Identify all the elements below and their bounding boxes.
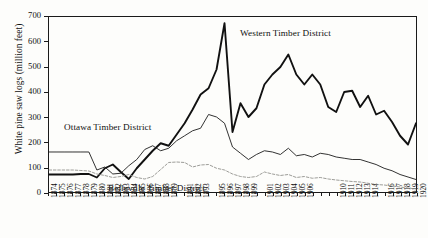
x-tick-mark bbox=[321, 193, 322, 196]
y-tick-label: 700 bbox=[17, 11, 41, 20]
x-tick-mark bbox=[329, 193, 330, 196]
y-tick-label: 500 bbox=[17, 62, 41, 71]
x-tick-mark bbox=[48, 193, 49, 196]
y-tick-label: 400 bbox=[17, 87, 41, 96]
x-tick-mark bbox=[377, 193, 378, 196]
series-label-ottawa: Ottawa Timber District bbox=[64, 122, 151, 132]
plot-area bbox=[48, 16, 417, 193]
y-tick-label: 600 bbox=[17, 37, 41, 46]
series-line-belleville bbox=[49, 162, 416, 189]
x-tick-mark bbox=[401, 193, 402, 196]
y-tick-label: 200 bbox=[17, 138, 41, 147]
x-tick-mark bbox=[72, 193, 73, 196]
x-tick-mark bbox=[337, 193, 338, 196]
x-tick-mark bbox=[417, 193, 418, 196]
y-tick-label: 100 bbox=[17, 163, 41, 172]
x-tick-mark bbox=[257, 193, 258, 196]
x-tick-mark bbox=[88, 193, 89, 196]
series-layer bbox=[49, 17, 416, 192]
series-label-belleville: Belleville Timber District bbox=[108, 183, 205, 193]
y-tick-label: 300 bbox=[17, 113, 41, 122]
x-tick-mark bbox=[369, 193, 370, 196]
series-label-western: Western Timber District bbox=[240, 28, 331, 38]
x-tick-mark bbox=[64, 193, 65, 196]
x-tick-mark bbox=[409, 193, 410, 196]
series-line-western bbox=[49, 23, 416, 179]
x-tick-mark bbox=[176, 193, 177, 196]
x-tick-mark bbox=[208, 193, 209, 196]
x-tick-mark bbox=[80, 193, 81, 196]
y-tick-label: 0 bbox=[17, 188, 41, 197]
x-tick-mark bbox=[56, 193, 57, 196]
x-tick-mark bbox=[393, 193, 394, 196]
x-tick-mark bbox=[96, 193, 97, 196]
x-tick-mark bbox=[385, 193, 386, 196]
x-tick-mark bbox=[353, 193, 354, 196]
x-tick-mark bbox=[104, 193, 105, 196]
x-tick-label: 1920 bbox=[420, 183, 427, 198]
x-tick-mark bbox=[361, 193, 362, 196]
x-tick-mark bbox=[313, 193, 314, 196]
x-tick-mark bbox=[345, 193, 346, 196]
